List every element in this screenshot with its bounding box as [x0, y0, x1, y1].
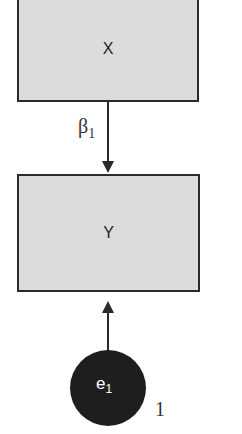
edges-layer	[0, 0, 242, 434]
node-e1-variance-label: 1	[155, 398, 165, 421]
arrowhead-icon	[102, 161, 114, 173]
edge-label-beta1: β1	[78, 115, 95, 142]
arrowhead-icon	[102, 301, 114, 313]
node-e1-label: e1	[96, 374, 112, 396]
edge-e1-to-y	[102, 301, 114, 352]
edge-x-to-y	[102, 102, 114, 173]
